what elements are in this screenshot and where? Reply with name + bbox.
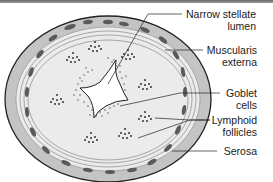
label-serosa: Serosa: [219, 145, 257, 157]
label-line: Goblet: [222, 87, 257, 99]
label-goblet-cells: Goblet cells: [222, 87, 257, 111]
label-line: Muscularis: [205, 44, 257, 56]
label-lymphoid-follicles: Lymphoid follicles: [211, 114, 257, 138]
label-narrow-stellate-lumen: Narrow stellate lumen: [184, 8, 256, 32]
label-line: cells: [222, 99, 257, 111]
label-line: Narrow stellate: [184, 8, 256, 20]
label-line: follicles: [211, 126, 257, 138]
label-line: Serosa: [219, 145, 257, 157]
label-muscularis-externa: Muscularis externa: [205, 44, 257, 68]
label-line: Lymphoid: [211, 114, 257, 126]
label-line: lumen: [184, 20, 256, 32]
label-line: externa: [205, 56, 257, 68]
